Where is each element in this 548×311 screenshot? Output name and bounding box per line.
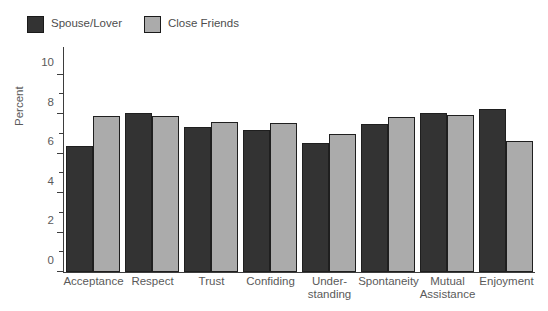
y-axis-tick: [57, 113, 63, 114]
y-axis-tick-minor: [59, 172, 63, 173]
y-axis-tick: [57, 271, 63, 272]
x-axis-label-line: standing: [292, 288, 367, 301]
y-axis-title: Percent: [14, 86, 26, 126]
bar-group: [420, 55, 475, 272]
bar: [447, 115, 474, 272]
legend-label: Spouse/Lover: [51, 18, 122, 30]
y-axis-tick: [57, 74, 63, 75]
bar-group: [302, 55, 357, 272]
bar: [506, 141, 533, 272]
bar-chart: Spouse/LoverClose Friends Percent 024681…: [0, 0, 548, 311]
bar: [479, 109, 506, 272]
y-axis-tick-label: 0: [48, 255, 54, 267]
legend-swatch-icon: [144, 16, 161, 33]
y-axis-tick-label: 6: [48, 136, 54, 148]
chart-legend: Spouse/LoverClose Friends: [27, 13, 239, 35]
y-axis-tick-minor: [59, 212, 63, 213]
y-axis-tick-minor: [59, 251, 63, 252]
bar: [184, 127, 211, 272]
x-axis-label-line: Enjoyment: [469, 275, 544, 288]
plot-area: 0246810: [63, 55, 535, 272]
legend-label: Close Friends: [168, 18, 239, 30]
bars-layer: [64, 55, 535, 272]
x-axis-line: [63, 272, 535, 273]
y-axis-tick-minor: [59, 133, 63, 134]
x-axis-labels: AcceptanceRespectTrustConfidingUnder-sta…: [64, 275, 536, 309]
y-axis-tick: [57, 192, 63, 193]
bar-group: [243, 55, 298, 272]
bar-group: [479, 55, 534, 272]
bar: [388, 117, 415, 272]
bar: [93, 116, 120, 272]
y-axis-tick-label: 8: [48, 97, 54, 109]
bar-group: [184, 55, 239, 272]
bar: [270, 123, 297, 272]
bar: [125, 113, 152, 272]
y-axis-tick: [57, 153, 63, 154]
bar-group: [361, 55, 416, 272]
x-axis-label-line: Assistance: [410, 288, 485, 301]
bar: [211, 122, 238, 272]
y-axis-tick-minor: [59, 93, 63, 94]
y-axis-tick-label: 10: [41, 57, 54, 69]
legend-entry: Spouse/Lover: [27, 16, 122, 33]
bar: [66, 146, 93, 272]
bar: [152, 116, 179, 272]
y-axis-tick-label: 2: [48, 215, 54, 227]
legend-entry: Close Friends: [144, 16, 239, 33]
bar: [420, 113, 447, 272]
y-axis-tick-label: 4: [48, 176, 54, 188]
x-axis-label: Enjoyment: [469, 275, 544, 288]
y-axis-tick: [57, 232, 63, 233]
bar: [302, 143, 329, 272]
bar-group: [66, 55, 121, 272]
legend-swatch-icon: [27, 16, 44, 33]
bar-group: [125, 55, 180, 272]
bar: [243, 130, 270, 272]
bar: [329, 134, 356, 272]
bar: [361, 124, 388, 272]
